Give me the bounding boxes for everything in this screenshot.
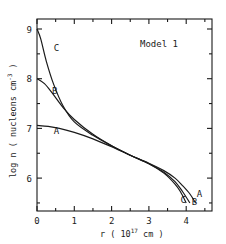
y-tick-label: 8 (27, 74, 32, 84)
axis-ticks (37, 19, 212, 211)
curve-label: B (192, 197, 197, 207)
x-axis-label-unit: cm ) (138, 229, 164, 239)
y-axis-label-close: ) (8, 63, 18, 73)
y-axis-label-main: log n ( nucleons cm (8, 81, 18, 178)
x-tick-label: 3 (146, 216, 151, 226)
plot-frame (37, 19, 212, 211)
y-axis-label: log n ( nucleons cm-3 ) (6, 63, 18, 178)
curve-c (37, 29, 186, 203)
x-tick-label: 1 (72, 216, 77, 226)
axis-tick-labels: 012346789 (27, 25, 189, 227)
y-tick-label: 7 (27, 124, 32, 134)
y-tick-label: 9 (27, 25, 32, 35)
curve-a (37, 125, 196, 203)
y-tick-label: 6 (27, 174, 32, 184)
curve-label: A (54, 126, 60, 136)
curve-label: A (197, 189, 203, 199)
x-axis-label: r ( 1017 cm ) (100, 227, 164, 239)
plot-border (37, 19, 212, 211)
curve-b (37, 79, 190, 203)
curve-label: C (181, 195, 186, 205)
x-tick-label: 4 (183, 216, 188, 226)
density-curves (37, 29, 196, 203)
x-tick-label: 0 (34, 216, 39, 226)
model-title: Model 1 (140, 39, 178, 49)
curve-label: C (54, 43, 59, 53)
curve-label: B (52, 86, 57, 96)
x-axis-label-main: r ( 10 (100, 229, 131, 239)
chart-figure: 012346789 CBAABC Model 1 r ( 1017 cm ) l… (0, 0, 226, 244)
x-tick-label: 2 (109, 216, 114, 226)
